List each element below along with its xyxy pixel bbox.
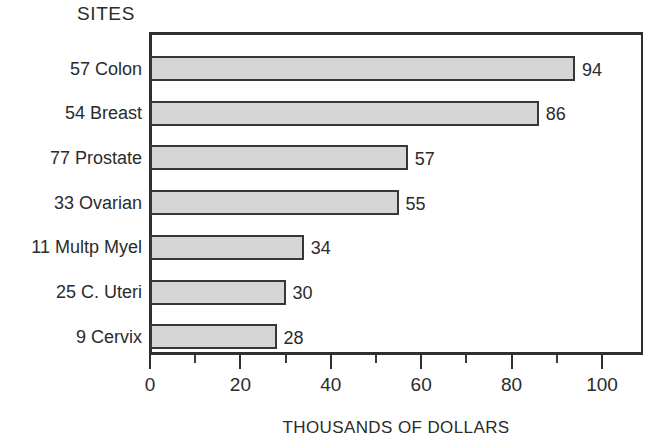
- x-axis-tick-label: 80: [501, 374, 522, 396]
- category-label: 9 Cervix: [8, 328, 150, 346]
- category-label: 77 Prostate: [8, 149, 150, 167]
- x-axis-tick-label: 40: [320, 374, 341, 396]
- x-axis-minor-tick: [375, 355, 377, 363]
- category-label: 11 Multp Myel: [8, 238, 150, 256]
- x-axis-minor-tick: [285, 355, 287, 363]
- category-label: 33 Ovarian: [8, 194, 150, 212]
- chart-canvas: SITES 94865755343028 57 Colon54 Breast77…: [0, 0, 648, 443]
- category-label: 25 C. Uteri: [8, 283, 150, 301]
- x-axis-minor-tick: [556, 355, 558, 363]
- x-axis-minor-tick: [194, 355, 196, 363]
- x-axis-major-tick: [601, 355, 603, 369]
- chart-title-sites: SITES: [77, 3, 135, 25]
- category-label: 54 Breast: [8, 104, 150, 122]
- plot-frame: [149, 32, 643, 355]
- x-axis-major-tick: [239, 355, 241, 369]
- x-axis-title: THOUSANDS OF DOLLARS: [149, 418, 643, 438]
- x-axis-minor-tick: [465, 355, 467, 363]
- x-axis-tick-label: 20: [230, 374, 251, 396]
- x-axis-major-tick: [149, 355, 151, 369]
- x-axis-tick-label: 100: [586, 374, 618, 396]
- x-axis-tick-label: 60: [411, 374, 432, 396]
- category-label: 57 Colon: [8, 60, 150, 78]
- x-axis-major-tick: [420, 355, 422, 369]
- x-axis-major-tick: [330, 355, 332, 369]
- x-axis-tick-label: 0: [145, 374, 156, 396]
- x-axis-major-tick: [511, 355, 513, 369]
